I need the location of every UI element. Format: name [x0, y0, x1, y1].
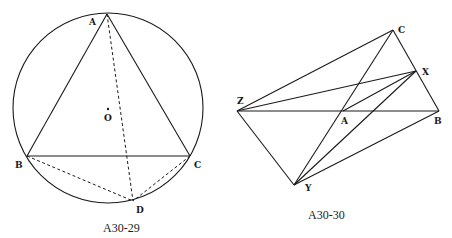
label-y: Y: [304, 183, 312, 193]
label-z: Z: [237, 96, 244, 106]
segment-ac: [107, 14, 190, 156]
segment-ab: [27, 14, 107, 156]
caption-a30-29: A30-29: [103, 221, 140, 235]
caption-a30-30: A30-30: [308, 208, 345, 222]
label-x: X: [422, 67, 429, 77]
label-c: C: [194, 160, 201, 170]
label-d: D: [136, 205, 144, 215]
segment-zc: [237, 30, 393, 111]
segment-cd-dashed: [133, 156, 190, 201]
segment-cb: [393, 30, 439, 111]
segment-zx: [237, 71, 416, 111]
label-a: A: [88, 17, 97, 27]
geometry-figures: A B C D O A30-29 Z A B C X Y A30-30: [0, 0, 452, 238]
segment-yb: [294, 111, 439, 185]
segment-xy: [294, 71, 416, 185]
label-c: C: [398, 25, 405, 35]
label-a: A: [340, 116, 349, 126]
figure-a30-29: A B C D O A30-29: [13, 13, 203, 235]
center-point-o: [107, 108, 109, 110]
segment-zy: [237, 111, 294, 185]
segment-ad-dashed: [107, 14, 133, 201]
label-b: B: [434, 116, 442, 126]
label-b: B: [15, 160, 23, 170]
segment-bd-dashed: [27, 156, 133, 201]
label-o: O: [104, 113, 112, 123]
figure-a30-30: Z A B C X Y A30-30: [237, 25, 442, 222]
segment-cy: [294, 30, 393, 185]
